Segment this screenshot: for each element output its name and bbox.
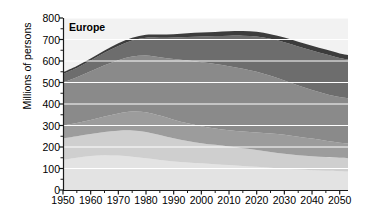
y-axis-tick-labels: 0100200300400500600700800 <box>20 0 60 222</box>
y-tick-label-200: 200 <box>42 141 60 153</box>
y-tick-label-800: 800 <box>42 12 60 24</box>
y-tick-label-700: 700 <box>42 34 60 46</box>
x-axis-tick-labels: 1950196019701980199020002010202020302040… <box>0 192 369 212</box>
x-tick-label-1980: 1980 <box>134 194 157 206</box>
x-tick-label-2040: 2040 <box>300 194 323 206</box>
panel-label-europe: Europe <box>69 21 105 33</box>
chart-figure: Millions of persons 01002003004005006007… <box>0 0 369 222</box>
stacked-area-chart <box>63 18 348 190</box>
area-series-group <box>63 31 348 190</box>
x-tick-label-2020: 2020 <box>245 194 268 206</box>
x-tick-label-2030: 2030 <box>273 194 296 206</box>
x-tick-label-1950: 1950 <box>51 194 74 206</box>
plot-area: Europe <box>63 18 348 190</box>
y-tick-label-600: 600 <box>42 55 60 67</box>
x-tick-label-2010: 2010 <box>217 194 240 206</box>
y-tick-label-300: 300 <box>42 120 60 132</box>
x-tick-label-1970: 1970 <box>107 194 130 206</box>
x-tick-label-2050: 2050 <box>328 194 351 206</box>
x-tick-label-2000: 2000 <box>190 194 213 206</box>
x-tick-label-1990: 1990 <box>162 194 185 206</box>
y-tick-label-100: 100 <box>42 163 60 175</box>
x-tick-label-1960: 1960 <box>79 194 102 206</box>
y-tick-label-500: 500 <box>42 77 60 89</box>
y-tick-label-400: 400 <box>42 98 60 110</box>
